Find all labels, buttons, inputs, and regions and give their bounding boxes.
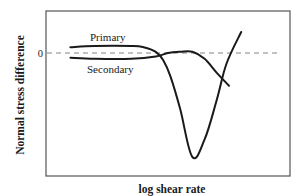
chart: 0 Primary Secondary log shear rate Norma… <box>0 0 303 196</box>
series-layer <box>70 32 241 158</box>
series-label-secondary: Secondary <box>87 63 134 75</box>
y-tick-label-zero: 0 <box>38 48 43 59</box>
series-line-primary <box>70 32 241 158</box>
x-axis-label: log shear rate <box>139 183 206 196</box>
y-axis-label: Normal stress difference <box>14 35 26 155</box>
plot-frame <box>46 11 290 176</box>
series-label-primary: Primary <box>90 31 126 43</box>
